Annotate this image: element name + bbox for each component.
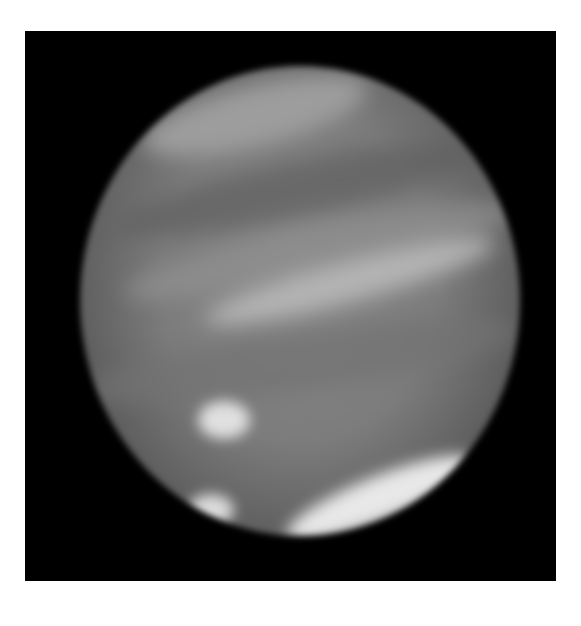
- image-frame: [25, 31, 556, 581]
- bright-south-arc: [279, 440, 481, 536]
- planet-jupiter: [80, 66, 520, 536]
- bright-spot-center-left: [198, 401, 250, 439]
- dark-south-belt: [80, 301, 520, 422]
- bright-spot-lower-left: [188, 494, 234, 526]
